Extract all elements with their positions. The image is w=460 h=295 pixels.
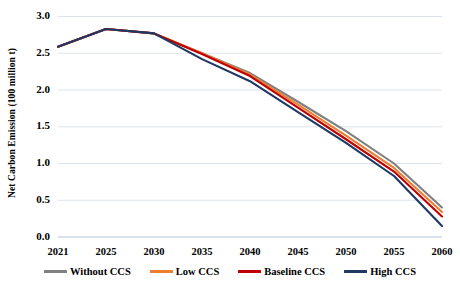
legend-label: Low CCS <box>176 266 219 277</box>
plot-area <box>0 0 460 295</box>
series-line <box>58 29 442 226</box>
legend-label: High CCS <box>370 266 416 277</box>
legend-item[interactable]: Baseline CCS <box>238 266 325 277</box>
chart-container: Net Carbon Emission (100 million t) 0.00… <box>0 0 460 295</box>
legend-item[interactable]: High CCS <box>344 266 416 277</box>
legend-swatch-icon <box>44 270 67 273</box>
legend-swatch-icon <box>344 270 367 273</box>
series-line <box>58 29 442 216</box>
chart-legend: Without CCSLow CCSBaseline CCSHigh CCS <box>0 266 460 277</box>
legend-item[interactable]: Without CCS <box>44 266 131 277</box>
legend-label: Baseline CCS <box>264 266 325 277</box>
series-line <box>58 29 442 212</box>
legend-label: Without CCS <box>70 266 131 277</box>
data-series-layer <box>58 29 442 226</box>
legend-item[interactable]: Low CCS <box>150 266 219 277</box>
legend-swatch-icon <box>238 270 261 273</box>
series-line <box>58 29 442 208</box>
gridlines <box>58 17 442 238</box>
legend-swatch-icon <box>150 270 173 273</box>
